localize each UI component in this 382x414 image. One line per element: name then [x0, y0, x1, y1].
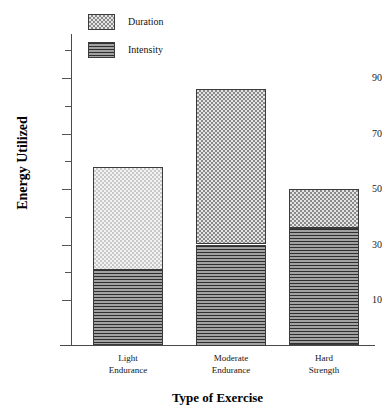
y-tick-minor-20: [65, 272, 72, 273]
x-category-label-hard-strength: Hard Strength: [279, 352, 369, 376]
bar-segment-intensity-hard-strength[interactable]: [289, 228, 359, 345]
bar-segment-duration-hard-strength[interactable]: [289, 189, 359, 228]
x-axis-title: Type of Exercise: [60, 390, 375, 406]
bar-segment-duration-light-endurance[interactable]: [93, 167, 163, 270]
bar-segment-intensity-moderate-endurance[interactable]: [196, 245, 266, 346]
y-tick-major-50: [62, 189, 72, 190]
bar-chart: Duration Intensity 90 70 50 30 10 Energy…: [0, 0, 382, 414]
y-tick-minor-40: [65, 217, 72, 218]
x-category-label-light-endurance: Light Endurance: [83, 352, 173, 376]
legend-swatch-duration-icon: [88, 14, 115, 30]
y-tick-major-10: [62, 300, 72, 301]
bar-segment-duration-moderate-endurance[interactable]: [196, 89, 266, 244]
y-tick-minor-60: [65, 161, 72, 162]
y-tick-major-90: [62, 78, 72, 79]
y-tick-label-10: 10: [356, 295, 382, 305]
y-tick-label-70: 70: [356, 129, 382, 139]
y-axis-title: Energy Utilized: [15, 108, 31, 218]
legend-label-intensity: Intensity: [128, 44, 163, 55]
y-tick-major-30: [62, 245, 72, 246]
category-line-1: Moderate: [186, 352, 276, 364]
bar-segment-intensity-light-endurance[interactable]: [93, 269, 163, 345]
category-line-2: Endurance: [186, 364, 276, 376]
category-line-1: Light: [83, 352, 173, 364]
y-tick-minor-80: [65, 106, 72, 107]
x-category-label-moderate-endurance: Moderate Endurance: [186, 352, 276, 376]
category-line-2: Strength: [279, 364, 369, 376]
y-tick-major-70: [62, 134, 72, 135]
y-tick-label-90: 90: [356, 73, 382, 83]
legend-label-duration: Duration: [128, 16, 164, 27]
y-tick-minor-100: [65, 50, 72, 51]
y-tick-label-30: 30: [356, 240, 382, 250]
y-tick-label-50: 50: [356, 184, 382, 194]
category-line-2: Endurance: [83, 364, 173, 376]
legend-swatch-intensity-icon: [88, 42, 115, 58]
category-line-1: Hard: [279, 352, 369, 364]
